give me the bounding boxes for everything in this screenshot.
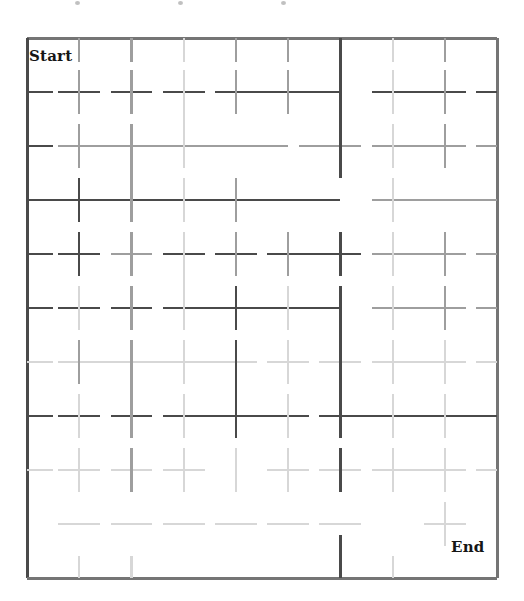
- scan-artifact-0: [75, 1, 80, 5]
- scan-artifact-1: [178, 1, 183, 5]
- end-label: End: [451, 538, 484, 556]
- maze-grid-canvas: [0, 0, 524, 601]
- horizontal-wall-group: [27, 92, 497, 524]
- scan-artifact-2: [281, 1, 286, 5]
- start-label: Start: [29, 47, 72, 65]
- maze-container: Start End: [0, 0, 524, 601]
